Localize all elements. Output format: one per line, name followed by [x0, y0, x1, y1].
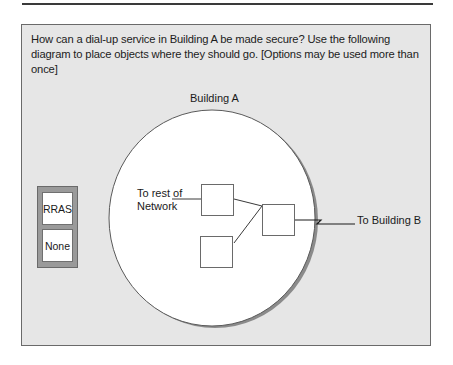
building-a-label: Building A — [190, 92, 239, 105]
option-rras[interactable]: RRAS — [42, 192, 73, 225]
question-text: How can a dial-up service in Building A … — [31, 32, 423, 77]
rest-of-network-label: To rest of Network — [137, 187, 197, 213]
option-none[interactable]: None — [42, 229, 73, 262]
drop-target-1[interactable] — [201, 184, 234, 216]
drop-target-3[interactable] — [200, 236, 233, 268]
top-divider — [22, 3, 433, 5]
drop-target-2[interactable] — [262, 204, 295, 236]
options-tray: RRAS None — [37, 186, 78, 268]
to-building-b-label: To Building B — [357, 214, 421, 227]
